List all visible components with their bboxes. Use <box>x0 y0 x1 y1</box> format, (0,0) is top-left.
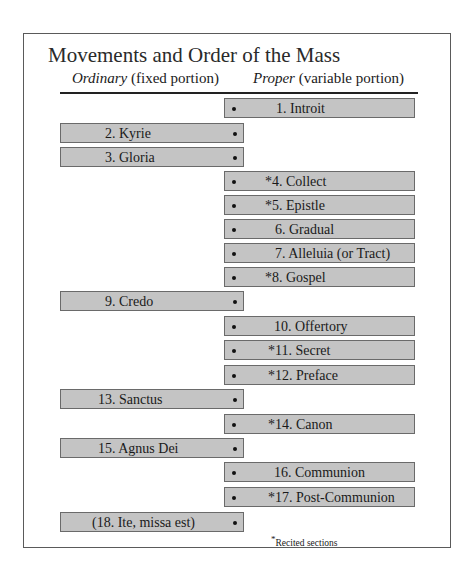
movement-gradual: 6. Gradual <box>224 219 415 239</box>
header-rule <box>60 92 418 94</box>
column-header-proper: Proper (variable portion) <box>253 70 404 87</box>
bullet-icon <box>233 132 237 136</box>
bullet-icon <box>232 252 236 256</box>
bullet-icon <box>232 496 236 500</box>
movement-label: 15. Agnus Dei <box>98 439 179 458</box>
movement-label: *8. Gospel <box>265 268 326 287</box>
movement-label: 16. Communion <box>274 463 365 482</box>
bullet-icon <box>232 204 236 208</box>
movement-label: 1. Introit <box>276 99 325 118</box>
ordinary-label: Ordinary <box>72 70 127 86</box>
movement-post-communion: *17. Post-Communion <box>224 487 415 507</box>
bullet-icon <box>232 471 236 475</box>
movement-label: 2. Kyrie <box>105 124 151 143</box>
movement-gospel: *8. Gospel <box>224 267 415 287</box>
proper-label: Proper <box>253 70 295 86</box>
movement-label: (18. Ite, missa est) <box>92 513 195 532</box>
bullet-icon <box>232 107 236 111</box>
bullet-icon <box>233 521 237 525</box>
movement-label: *17. Post-Communion <box>268 488 395 507</box>
movement-ite-missa-est: (18. Ite, missa est) <box>60 512 244 532</box>
movement-epistle: *5. Epistle <box>224 195 415 215</box>
movement-label: 10. Offertory <box>274 317 348 336</box>
movement-label: *14. Canon <box>268 415 333 434</box>
bullet-icon <box>232 349 236 353</box>
column-header-ordinary: Ordinary (fixed portion) <box>72 70 219 87</box>
movement-label: 3. Gloria <box>105 148 155 167</box>
movement-label: *12. Preface <box>268 366 338 385</box>
bullet-icon <box>233 156 237 160</box>
movement-communion: 16. Communion <box>224 462 415 482</box>
movement-introit: 1. Introit <box>224 98 415 118</box>
movement-label: *11. Secret <box>268 341 330 360</box>
movement-agnus-dei: 15. Agnus Dei <box>60 438 244 458</box>
footnote-text: Recited sections <box>276 538 338 548</box>
bullet-icon <box>232 374 236 378</box>
movement-label: *4. Collect <box>265 172 326 191</box>
movement-label: *5. Epistle <box>265 196 325 215</box>
movement-collect: *4. Collect <box>224 171 415 191</box>
proper-desc: (variable portion) <box>295 70 404 86</box>
bullet-icon <box>233 398 237 402</box>
movement-label: 7. Alleluia (or Tract) <box>275 244 390 263</box>
ordinary-desc: (fixed portion) <box>127 70 219 86</box>
bullet-icon <box>232 423 236 427</box>
movement-preface: *12. Preface <box>224 365 415 385</box>
movement-sanctus: 13. Sanctus <box>60 389 244 409</box>
movement-alleluia: 7. Alleluia (or Tract) <box>224 243 415 263</box>
bullet-icon <box>232 180 236 184</box>
movement-label: 9. Credo <box>105 292 153 311</box>
footnote: *Recited sections <box>271 534 338 548</box>
movement-offertory: 10. Offertory <box>224 316 415 336</box>
movement-label: 6. Gradual <box>275 220 334 239</box>
bullet-icon <box>233 300 237 304</box>
movement-gloria: 3. Gloria <box>60 147 244 167</box>
movement-label: 13. Sanctus <box>98 390 163 409</box>
movement-credo: 9. Credo <box>60 291 244 311</box>
bullet-icon <box>232 325 236 329</box>
movement-canon: *14. Canon <box>224 414 415 434</box>
bullet-icon <box>232 228 236 232</box>
diagram-title: Movements and Order of the Mass <box>48 43 340 68</box>
bullet-icon <box>232 276 236 280</box>
movement-kyrie: 2. Kyrie <box>60 123 244 143</box>
movement-secret: *11. Secret <box>224 340 415 360</box>
bullet-icon <box>233 447 237 451</box>
